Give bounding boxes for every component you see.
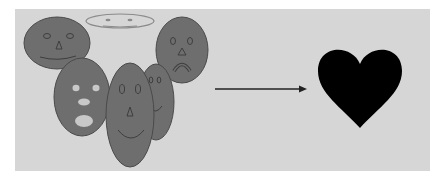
diagram-canvas — [0, 0, 442, 179]
faint-face — [86, 14, 154, 28]
tall-smiling-face — [106, 63, 154, 167]
surprised-face — [54, 58, 110, 136]
heart-icon — [318, 50, 402, 128]
arrow-right-icon — [215, 86, 307, 93]
